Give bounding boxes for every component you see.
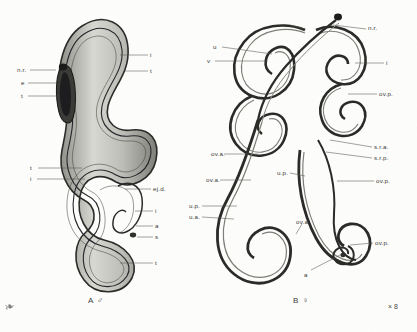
figure-a-label-5: t [30, 165, 32, 171]
figure-a-label-1: e [21, 80, 25, 86]
figure-b-label-2: u [213, 44, 217, 50]
figure-a-label-10: s [155, 234, 158, 240]
figure-b-label-15: ov.p. [375, 240, 389, 246]
figure-b-label-6: ov.a. [211, 151, 225, 157]
figure-a-label-2: t [21, 93, 23, 99]
anterior-end-node [334, 14, 342, 21]
figure-a-label-4: t [150, 68, 152, 74]
figure-a-label-6: i [30, 176, 32, 182]
scale-note: × 8 [388, 303, 398, 310]
figure-a-label-9: a [155, 223, 159, 229]
figure-b-label-14: ov.a. [296, 219, 310, 225]
figure-b-label-4: i [386, 60, 388, 66]
figure-b-caption: B ♀ [293, 296, 310, 305]
figure-b-label-0: e [283, 22, 287, 28]
figure-b-label-1: n.r. [368, 25, 377, 31]
figure-b-label-11: u.p. [277, 170, 288, 176]
figure-b-label-10: ov.p. [376, 178, 390, 184]
figure-a-label-8: i [155, 208, 157, 214]
spicule-tip [130, 233, 136, 238]
vulva-opening [340, 253, 345, 257]
figure-b-label-3: v [207, 58, 210, 64]
figure-a-label-11: t [155, 260, 157, 266]
nerve-ring-node [59, 64, 67, 71]
figure-a-caption: A ♂ [88, 296, 104, 305]
figure-a-label-3: i [150, 52, 152, 58]
anatomical-plate [0, 0, 417, 332]
figure-b-label-13: u.a. [189, 214, 200, 220]
figure-b-label-12: u.p. [189, 203, 200, 209]
figure-b-label-5: ov.p. [379, 91, 393, 97]
figure-a-label-0: n.r. [17, 67, 26, 73]
figure-b-label-8: s.r.a. [374, 144, 389, 150]
figure-b-label-9: s.r.p. [374, 155, 389, 161]
figure-a-label-7: ej.d. [153, 186, 166, 192]
figure-b-label-7: ov.a. [206, 177, 220, 183]
figure-b-label-16: a [304, 272, 308, 278]
